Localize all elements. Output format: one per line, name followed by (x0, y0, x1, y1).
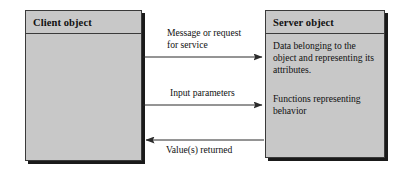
client-object-title: Client object (26, 17, 92, 28)
arrow-label-input-parameters: Input parameters (170, 87, 235, 99)
arrow-label-values-returned: Value(s) returned (166, 144, 232, 156)
server-object-header: Server object (266, 11, 384, 34)
server-object-title: Server object (266, 17, 334, 28)
client-object-header: Client object (26, 11, 141, 34)
arrow-label-message-or-request: Message or request for service (167, 27, 241, 51)
server-object-box: Server object Data belonging to the obje… (265, 10, 385, 158)
server-object-attributes-text: Data belonging to the object and represe… (273, 40, 377, 77)
client-object-body (26, 34, 141, 160)
diagram-canvas: Client object Server object Data belongi… (0, 0, 400, 177)
client-object-box: Client object (25, 10, 142, 161)
server-object-body: Data belonging to the object and represe… (266, 34, 384, 157)
server-object-functions-text: Functions representing behavior (273, 93, 377, 117)
